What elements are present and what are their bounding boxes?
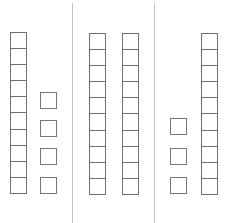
ten-rod (89, 33, 106, 195)
rod-cell (202, 147, 217, 163)
rod-cell (11, 130, 26, 146)
rod-cell (11, 146, 26, 162)
rod-cell (123, 179, 138, 195)
rod-cell (202, 66, 217, 82)
rod-cell (202, 34, 217, 50)
rod-cell (123, 131, 138, 147)
rod-cell (202, 163, 217, 179)
ten-rod (10, 32, 27, 194)
rod-cell (123, 50, 138, 66)
rod-cell (11, 97, 26, 113)
unit-cube (40, 177, 57, 194)
rod-cell (202, 179, 217, 195)
rod-cell (202, 131, 217, 147)
rod-cell (123, 114, 138, 130)
rod-cell (123, 98, 138, 114)
rod-cell (123, 66, 138, 82)
rod-cell (123, 163, 138, 179)
rod-cell (11, 81, 26, 97)
rod-cell (90, 179, 105, 195)
rod-cell (11, 49, 26, 65)
rod-cell (90, 98, 105, 114)
rod-cell (202, 98, 217, 114)
rod-cell (11, 162, 26, 178)
unit-cube (170, 148, 187, 165)
rod-cell (90, 163, 105, 179)
ten-rod (201, 33, 218, 195)
rod-cell (90, 34, 105, 50)
rod-cell (123, 82, 138, 98)
rod-cell (90, 82, 105, 98)
unit-cube (170, 118, 187, 135)
rod-cell (11, 33, 26, 49)
rod-cell (90, 50, 105, 66)
rod-cell (202, 114, 217, 130)
unit-cube (40, 148, 57, 165)
rod-cell (90, 147, 105, 163)
unit-cube (170, 177, 187, 194)
rod-cell (90, 114, 105, 130)
rod-cell (90, 131, 105, 147)
rod-cell (123, 34, 138, 50)
unit-cube (40, 92, 57, 109)
rod-cell (90, 66, 105, 82)
rod-cell (202, 82, 217, 98)
divider-2 (154, 3, 155, 223)
divider-1 (72, 3, 73, 223)
ten-rod (122, 33, 139, 195)
rod-cell (123, 147, 138, 163)
rod-cell (11, 65, 26, 81)
rod-cell (11, 178, 26, 194)
rod-cell (202, 50, 217, 66)
unit-cube (40, 120, 57, 137)
rod-cell (11, 113, 26, 129)
